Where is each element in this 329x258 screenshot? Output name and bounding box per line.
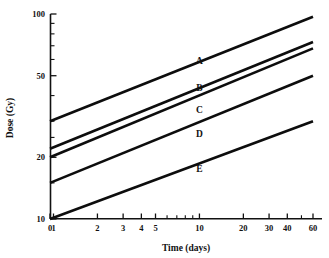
x-tick-label: 3 [121, 223, 125, 233]
series-label-d: D [196, 129, 203, 139]
x-tick-label: 60 [309, 223, 318, 233]
y-tick-label: 50 [37, 71, 46, 81]
series-label-c: C [196, 105, 203, 115]
series-label-e: E [196, 164, 202, 174]
series-label-a: A [196, 56, 203, 66]
x-tick-label: 4 [139, 223, 144, 233]
x-tick-label: 30 [265, 223, 274, 233]
y-axis-title: Dose (Gy) [5, 98, 16, 138]
y-tick-label: 100 [32, 9, 45, 19]
x-tick-label: 1 [51, 223, 55, 233]
x-axis-title: Time (days) [162, 243, 210, 254]
x-tick-label: 2 [95, 223, 99, 233]
series-label-b: B [196, 83, 203, 93]
x-tick-label: 5 [153, 223, 157, 233]
x-tick-label: 20 [239, 223, 248, 233]
y-tick-label: 10 [37, 214, 46, 224]
x-tick-label: 10 [195, 223, 204, 233]
y-tick-label: 20 [37, 152, 46, 162]
x-tick-label: 40 [283, 223, 292, 233]
chart-container: 102050100 0123451020304060 ABCDE Time (d… [0, 0, 329, 258]
log-log-chart: 102050100 0123451020304060 ABCDE Time (d… [0, 0, 329, 258]
